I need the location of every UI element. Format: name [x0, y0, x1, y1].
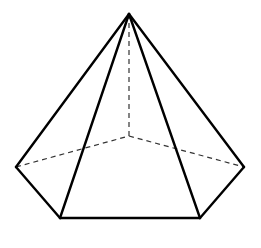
visible-edge-apex-right [129, 14, 244, 167]
visible-edge-left-front_left [16, 167, 60, 218]
visible-edges [16, 14, 244, 218]
visible-edge-apex-left [16, 14, 129, 167]
visible-edge-apex-front_left [60, 14, 129, 218]
visible-edge-front_right-right [200, 167, 244, 218]
visible-edge-apex-front_right [129, 14, 200, 218]
hidden-edge-left-back [16, 136, 129, 167]
hidden-edge-back-right [129, 136, 244, 167]
pentagonal-pyramid-diagram [0, 0, 261, 248]
hidden-edges [16, 14, 244, 167]
